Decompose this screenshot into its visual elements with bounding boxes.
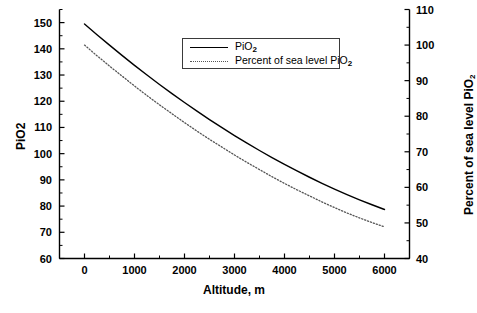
x-axis-title: Altitude, m — [203, 283, 265, 297]
chart-legend: PiO2 Percent of sea level PiO2 — [182, 38, 340, 69]
y-axis-right-tick-label: 70 — [416, 146, 428, 158]
y-axis-right-title-text: Percent of sea level PiO — [462, 79, 476, 215]
legend-label-pio2-text: PiO — [235, 40, 253, 52]
y-axis-right-ticks — [405, 10, 410, 259]
y-axis-left-tick-label: 130 — [18, 69, 52, 81]
legend-item-pio2: PiO2 — [183, 40, 339, 55]
y-axis-left-tick-label: 90 — [18, 174, 52, 186]
x-axis-tick-label: 5000 — [322, 264, 346, 276]
y-axis-right-tick-label: 90 — [416, 75, 428, 87]
y-axis-left-tick-label: 70 — [18, 226, 52, 238]
y-axis-right-tick-label: 80 — [416, 110, 428, 122]
y-axis-right-title: Percent of sea level PiO2 — [462, 74, 477, 215]
x-axis-tick-label: 0 — [81, 264, 87, 276]
y-axis-right-tick-label: 40 — [416, 253, 428, 265]
x-axis-tick-label: 4000 — [272, 264, 296, 276]
y-axis-left-tick-label: 80 — [18, 200, 52, 212]
y-axis-left-ticks — [60, 10, 65, 259]
y-axis-right-tick-label: 60 — [416, 181, 428, 193]
y-axis-left-tick-label: 140 — [18, 43, 52, 55]
x-axis-ticks — [60, 254, 410, 259]
legend-label-pio2-subscript: 2 — [253, 45, 257, 54]
y-axis-left-tick-label: 150 — [18, 17, 52, 29]
y-axis-right-title-subscript: 2 — [468, 74, 477, 78]
y-axis-right-tick-label: 110 — [416, 4, 434, 16]
legend-label-percent-sea-level: Percent of sea level PiO2 — [235, 55, 352, 68]
y-axis-left-tick-label: 60 — [18, 253, 52, 265]
legend-label-pio2: PiO2 — [235, 41, 257, 54]
legend-item-percent-sea-level: Percent of sea level PiO2 — [183, 54, 339, 69]
legend-label-percent-text: Percent of sea level PiO — [235, 54, 348, 66]
y-axis-right-tick-label: 100 — [416, 39, 434, 51]
y-axis-right-tick-label: 50 — [416, 217, 428, 229]
legend-swatch-dotted-line-icon — [190, 57, 228, 67]
x-axis-tick-label: 2000 — [172, 264, 196, 276]
y-axis-left-tick-label: 120 — [18, 95, 52, 107]
legend-label-percent-subscript: 2 — [348, 59, 352, 68]
y-axis-left-title: PiO2 — [14, 123, 28, 150]
x-axis-tick-label: 1000 — [122, 264, 146, 276]
x-axis-tick-label: 3000 — [222, 264, 246, 276]
legend-swatch-solid-line-icon — [190, 43, 228, 53]
x-axis-tick-label: 6000 — [372, 264, 396, 276]
